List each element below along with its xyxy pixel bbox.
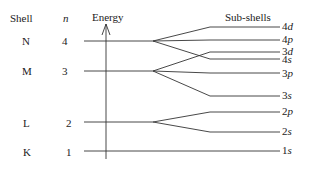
shell-name-N: N [22,36,30,47]
shell-n-2: 2 [66,118,72,129]
shell-header: Shell [10,13,33,24]
branch-3s [153,71,280,96]
shell-name-L: L [23,118,30,129]
branch-2p [153,112,280,122]
branch-3p [153,71,280,73]
n-header: n [63,13,69,24]
shell-name-M: M [22,66,32,77]
subshells-header: Sub-shells [225,12,271,23]
energy-level-diagram [0,0,309,176]
subshell-label-2p: 2p [282,106,293,117]
subshell-label-3s: 3s [282,90,292,101]
subshell-label-2s: 2s [282,126,292,137]
subshell-label-4p: 4p [282,34,293,45]
branch-4d [153,27,280,41]
branch-2s [153,122,280,132]
shell-n-1: 1 [66,147,72,158]
shell-name-K: K [23,147,31,158]
subshell-label-3p: 3p [282,68,293,79]
branch-3d [153,52,280,71]
shell-n-3: 3 [62,66,68,77]
subshell-label-1s: 1s [282,145,292,156]
subshell-label-4s: 4s [282,54,292,65]
branch-4p [153,40,280,41]
shell-n-4: 4 [62,36,68,47]
energy-header: Energy [92,12,124,23]
branch-4s [153,41,280,59]
subshell-label-4d: 4d [282,21,293,32]
